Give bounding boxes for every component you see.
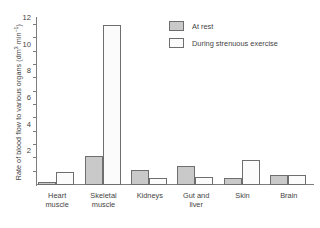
y-axis-line — [36, 17, 37, 186]
y-axis-title-superscript-volume: 3 — [13, 46, 19, 49]
bar-group — [131, 170, 169, 185]
bar-group — [224, 160, 262, 185]
y-axis-tick — [33, 91, 37, 92]
y-axis-tick-label: 10 — [23, 41, 31, 49]
y-axis-title-main: Rate of blood flow to various organs (dm — [14, 49, 23, 180]
bar — [177, 166, 195, 185]
legend: At rest During strenuous exercise — [169, 21, 278, 55]
y-axis-tick — [33, 144, 37, 145]
y-axis-tick-label: 6 — [27, 94, 31, 102]
bar — [103, 25, 121, 185]
x-axis-category-label: Brain — [257, 191, 320, 200]
y-axis-tick — [33, 104, 37, 105]
y-axis-title-superscript-time: −1 — [13, 27, 19, 33]
legend-item-at-rest: At rest — [169, 21, 278, 31]
y-axis-tick — [33, 64, 37, 65]
legend-label-during-strenuous-exercise: During strenuous exercise — [192, 39, 278, 48]
bar — [288, 175, 306, 185]
bar — [242, 160, 260, 185]
bar-group — [270, 175, 308, 185]
legend-swatch-at-rest — [169, 21, 184, 31]
y-axis-tick-label: 2 — [27, 147, 31, 155]
y-axis-title-end: ) — [14, 24, 23, 26]
y-axis-tick — [33, 131, 37, 132]
y-axis-tick — [33, 117, 37, 118]
y-axis-tick-label: 4 — [27, 121, 31, 129]
y-axis-tick — [33, 51, 37, 52]
legend-item-during-strenuous-exercise: During strenuous exercise — [169, 38, 278, 48]
y-axis-tick — [33, 77, 37, 78]
bar — [131, 170, 149, 185]
bar — [224, 178, 242, 185]
bar — [38, 182, 56, 185]
bar — [85, 156, 103, 185]
y-axis-tick — [33, 24, 37, 25]
bar — [149, 178, 167, 185]
bar — [56, 172, 74, 185]
bar-group — [177, 166, 215, 185]
y-axis-tick-label: 12 — [23, 14, 31, 22]
bar-group — [38, 172, 76, 185]
bar — [195, 177, 213, 185]
y-axis-tick — [33, 37, 37, 38]
bar-chart: Rate of blood flow to various organs (dm… — [0, 0, 320, 228]
bar-group — [85, 25, 123, 185]
legend-label-at-rest: At rest — [192, 22, 213, 31]
bar — [270, 175, 288, 185]
y-axis-tick-label: 8 — [27, 67, 31, 75]
y-axis-tick — [33, 171, 37, 172]
y-axis-title: Rate of blood flow to various organs (dm… — [13, 7, 23, 197]
legend-swatch-during-strenuous-exercise — [169, 38, 184, 48]
y-axis-tick — [33, 157, 37, 158]
